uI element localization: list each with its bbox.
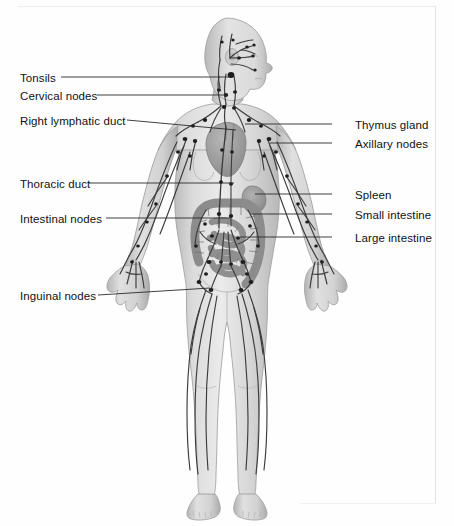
label-axillary-nodes: Axillary nodes [355,138,428,151]
human-body-lymphatic-illustration [0,0,454,526]
label-right-lymphatic-duct: Right lymphatic duct [20,115,126,128]
left-hand-shape [107,264,150,311]
label-large-intestine: Large intestine [355,232,432,245]
label-thymus-gland: Thymus gland [355,119,428,132]
left-foot-shape [187,494,220,520]
label-cervical-nodes: Cervical nodes [20,90,97,103]
lymphatic-system-figure: TonsilsCervical nodesRight lymphatic duc… [0,0,454,526]
label-spleen: Spleen [355,189,391,202]
label-intestinal-nodes: Intestinal nodes [20,213,102,226]
right-foot-shape [234,494,267,520]
label-tonsils: Tonsils [20,72,56,85]
label-thoracic-duct: Thoracic duct [20,178,90,191]
label-small-intestine: Small intestine [355,209,431,222]
right-hand-shape [305,264,348,311]
label-inguinal-nodes: Inguinal nodes [20,290,96,303]
